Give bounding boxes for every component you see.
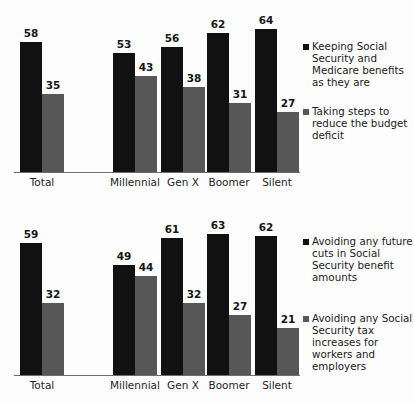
bar-value-label: 31	[221, 89, 259, 100]
bar	[277, 112, 299, 172]
legend-entry[interactable]: Taking steps to reduce the budget defici…	[303, 105, 414, 141]
bar	[135, 76, 157, 172]
plot-area-top: 5835Total5343Millennial5638Gen X6231Boom…	[0, 0, 300, 202]
category-label: Total	[2, 176, 82, 188]
bar-value-label: 21	[269, 314, 307, 325]
x-axis-line	[14, 172, 300, 173]
legend-label: Avoiding any Social Security tax increas…	[312, 312, 414, 372]
bar-value-label: 49	[105, 251, 143, 262]
bar	[183, 303, 205, 375]
bar-value-label: 27	[221, 301, 259, 312]
chart-bottom: 5932Total4944Millennial6132Gen X6327Boom…	[0, 200, 414, 402]
bar-value-label: 53	[105, 39, 143, 50]
bar	[229, 315, 251, 375]
bar-value-label: 62	[199, 19, 237, 30]
bar	[229, 103, 251, 172]
bar-value-label: 62	[247, 222, 285, 233]
category-label: Total	[2, 379, 82, 391]
bar-value-label: 43	[127, 62, 165, 73]
legend-label: Keeping Social Security and Medicare ben…	[312, 40, 414, 88]
legend-entry[interactable]: Keeping Social Security and Medicare ben…	[303, 40, 414, 88]
chart-top: 5835Total5343Millennial5638Gen X6231Boom…	[0, 0, 414, 202]
bar	[42, 303, 64, 375]
legend-swatch-icon	[303, 44, 309, 50]
bar-value-label: 44	[127, 262, 165, 273]
x-axis-line	[14, 375, 300, 376]
category-label: Silent	[237, 379, 317, 391]
legend-entry[interactable]: Avoiding any Social Security tax increas…	[303, 312, 414, 372]
bar-value-label: 32	[34, 289, 72, 300]
bar-value-label: 61	[153, 224, 191, 235]
legend-label: Taking steps to reduce the budget defici…	[312, 105, 414, 141]
bar	[113, 265, 135, 375]
bar	[20, 42, 42, 172]
plot-area-bottom: 5932Total4944Millennial6132Gen X6327Boom…	[0, 200, 300, 402]
legend-entry[interactable]: Avoiding any future cuts in Social Secur…	[303, 235, 414, 283]
legend-label: Avoiding any future cuts in Social Secur…	[312, 235, 414, 283]
legend-swatch-icon	[303, 316, 309, 322]
bar	[183, 87, 205, 172]
bar	[135, 276, 157, 375]
bar	[207, 33, 229, 172]
legend-swatch-icon	[303, 239, 309, 245]
bar-value-label: 64	[247, 15, 285, 26]
bar-value-label: 56	[153, 33, 191, 44]
bar	[277, 328, 299, 375]
bar	[161, 238, 183, 375]
category-label: Silent	[237, 176, 317, 188]
bar	[42, 94, 64, 172]
bar-value-label: 58	[12, 28, 50, 39]
bar	[255, 236, 277, 375]
bar-value-label: 35	[34, 80, 72, 91]
bar-value-label: 27	[269, 98, 307, 109]
bar-value-label: 59	[12, 229, 50, 240]
legend-swatch-icon	[303, 109, 309, 115]
bar	[161, 47, 183, 172]
bar-value-label: 63	[199, 220, 237, 231]
bar	[20, 243, 42, 375]
